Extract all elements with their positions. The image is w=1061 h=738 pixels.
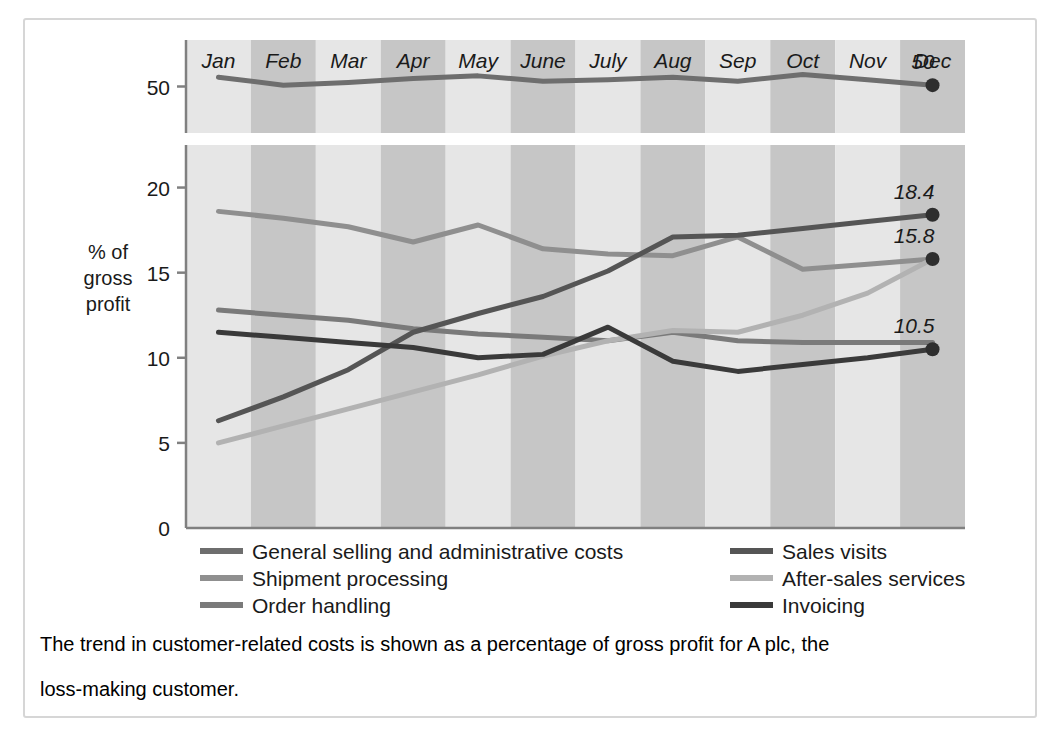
legend-label-order-handling: Order handling (252, 594, 391, 617)
series-end-dot-invoicing (926, 342, 940, 356)
month-label-apr: Apr (395, 49, 431, 72)
y-tick-label-20: 20 (147, 177, 170, 200)
month-band-lower-apr (381, 145, 446, 528)
end-label-sales-visits: 18.4 (894, 180, 935, 203)
legend-label-sales-visits: Sales visits (782, 540, 887, 563)
y-tick-label-15: 15 (147, 262, 170, 285)
legend-label-after-sales-services: After-sales services (782, 567, 965, 590)
legend-label-invoicing: Invoicing (782, 594, 865, 617)
end-label-invoicing: 10.5 (894, 314, 935, 337)
month-label-oct: Oct (786, 49, 820, 72)
caption-line-2: loss-making customer. (40, 672, 970, 707)
legend-label-general-selling-and-administrative-costs: General selling and administrative costs (252, 540, 623, 563)
month-label-june: June (519, 49, 566, 72)
month-band-lower-nov (835, 145, 900, 528)
y-tick-label-0: 0 (158, 517, 170, 540)
y-axis-title-line-3: profit (86, 293, 131, 315)
month-label-nov: Nov (849, 49, 888, 72)
caption: The trend in customer-related costs is s… (40, 627, 970, 717)
series-end-dot-general-selling-and-administrative-costs (926, 78, 940, 92)
y-axis-title-line-1: % of (88, 241, 128, 263)
month-label-jan: Jan (201, 49, 236, 72)
y-axis-title-line-2: gross (84, 267, 133, 289)
legend-label-shipment-processing: Shipment processing (252, 567, 448, 590)
month-band-lower-oct (770, 145, 835, 528)
series-end-dot-sales-visits (926, 208, 940, 222)
series-end-dot-after-sales-services (926, 252, 940, 266)
month-label-feb: Feb (265, 49, 302, 72)
end-label-after-sales-services: 15.8 (894, 224, 935, 247)
y-tick-label-50: 50 (147, 76, 170, 99)
month-label-mar: Mar (330, 49, 367, 72)
caption-line-1: The trend in customer-related costs is s… (40, 627, 970, 662)
y-tick-label-10: 10 (147, 347, 170, 370)
month-band-lower-mar (316, 145, 381, 528)
month-label-aug: Aug (652, 49, 692, 72)
y-tick-label-5: 5 (158, 432, 170, 455)
end-label-general-selling-and-administrative-costs: 50 (911, 50, 935, 73)
month-label-may: May (458, 49, 499, 72)
month-label-july: July (588, 49, 628, 72)
month-label-sep: Sep (719, 49, 756, 72)
